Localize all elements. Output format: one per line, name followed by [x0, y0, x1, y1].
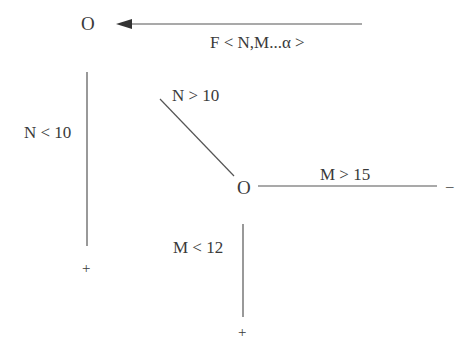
down-branch-label: M < 12 [173, 239, 223, 256]
diagonal-branch-label: N > 10 [172, 87, 219, 104]
diagram-lines [0, 0, 476, 352]
down-branch-end-sign: + [238, 325, 246, 340]
diagonal-branch-line [160, 99, 234, 176]
arrow-head-icon [116, 19, 132, 29]
right-branch-label: M > 15 [320, 166, 370, 183]
top-node: O [81, 14, 95, 33]
arrow-label: F < N,M...α > [210, 34, 305, 51]
center-node: O [237, 178, 251, 197]
right-branch-end-sign: – [446, 179, 454, 194]
left-branch-end-sign: + [82, 261, 90, 276]
left-branch-label: N < 10 [24, 124, 71, 141]
